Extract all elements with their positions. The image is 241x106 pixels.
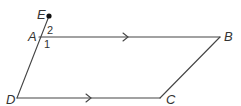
label-A: A xyxy=(27,29,37,44)
label-D: D xyxy=(6,92,15,106)
angle-1-label: 1 xyxy=(44,38,50,50)
segment-BC xyxy=(160,37,220,98)
angle-2-label: 2 xyxy=(47,24,53,36)
point-E-dot xyxy=(46,13,51,18)
parallelogram-diagram: E A B C D 2 1 xyxy=(0,0,241,106)
label-C: C xyxy=(166,92,176,106)
label-E: E xyxy=(37,7,46,22)
label-B: B xyxy=(224,29,233,44)
